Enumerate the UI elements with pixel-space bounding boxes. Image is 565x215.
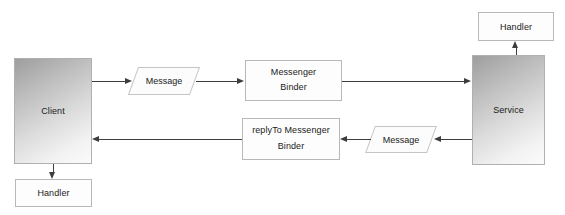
edge-reply-message-to-reply-messenger bbox=[347, 139, 371, 140]
service-handler-label: Handler bbox=[500, 22, 532, 32]
node-client: Client bbox=[14, 58, 92, 164]
node-reply-message: Message bbox=[370, 126, 432, 153]
node-client-handler: Handler bbox=[15, 179, 92, 207]
reply-messenger-line1: replyTo Messenger bbox=[252, 126, 330, 136]
service-label: Service bbox=[493, 105, 524, 115]
edge-messenger-to-service bbox=[342, 81, 465, 82]
arrowhead-request-message-to-messenger bbox=[237, 78, 244, 84]
node-request-messenger: Messenger Binder bbox=[245, 60, 342, 101]
arrowhead-reply-message-to-reply-messenger bbox=[340, 136, 347, 142]
arrowhead-reply-messenger-to-client bbox=[92, 136, 99, 142]
edge-client-to-request-message bbox=[92, 81, 126, 82]
diagram-canvas: Handler Service Client Handler Message M… bbox=[0, 0, 565, 215]
request-messenger-line1: Messenger bbox=[271, 68, 316, 78]
arrowhead-service-to-handler bbox=[512, 41, 518, 48]
node-service-handler: Handler bbox=[478, 12, 554, 41]
arrowhead-service-to-reply-message bbox=[434, 136, 441, 142]
reply-messenger-line2: Binder bbox=[278, 142, 305, 152]
arrowhead-messenger-to-service bbox=[464, 78, 471, 84]
reply-message-label: Message bbox=[370, 126, 432, 153]
request-messenger-line2: Binder bbox=[280, 83, 307, 93]
request-message-label: Message bbox=[133, 67, 195, 95]
node-request-message: Message bbox=[133, 67, 195, 95]
edge-service-to-reply-message bbox=[441, 139, 472, 140]
edge-reply-messenger-to-client bbox=[99, 139, 242, 140]
arrowhead-client-to-handler bbox=[49, 172, 55, 179]
client-label: Client bbox=[41, 106, 65, 116]
edge-request-message-to-messenger bbox=[196, 81, 238, 82]
client-handler-label: Handler bbox=[37, 188, 69, 198]
node-service: Service bbox=[472, 55, 545, 165]
node-reply-messenger: replyTo Messenger Binder bbox=[242, 118, 340, 160]
